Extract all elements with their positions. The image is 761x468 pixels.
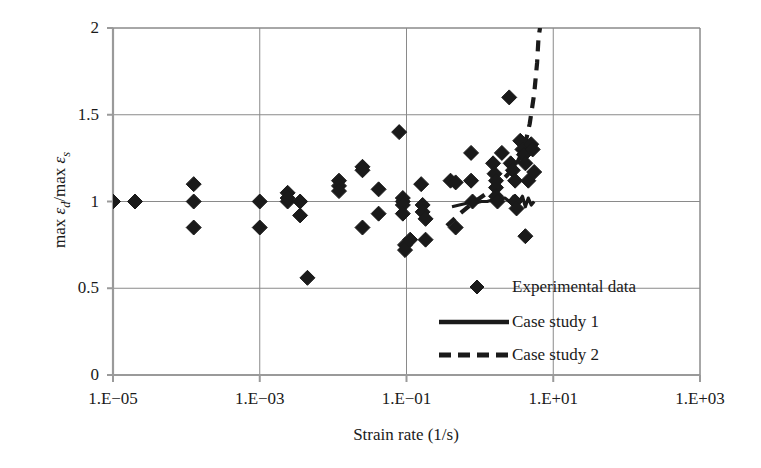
x-axis-tick-label: 1.E+03	[675, 389, 725, 409]
y-axis-title-separator: /max	[50, 163, 69, 201]
data-point-diamond	[186, 177, 201, 192]
y-axis-title-subscript-s: s	[59, 152, 73, 157]
data-point-diamond	[502, 90, 517, 105]
legend-label-3: Case study 2	[512, 345, 599, 365]
y-axis-title-prefix: max	[50, 215, 69, 249]
legend-marker-diamond	[470, 280, 484, 294]
y-axis-title: max εd/max εs	[50, 152, 73, 248]
data-point-diamond	[464, 145, 479, 160]
data-point-diamond	[355, 220, 370, 235]
data-point-diamond	[494, 145, 509, 160]
data-point-diamond	[186, 220, 201, 235]
data-point-diamond	[293, 194, 308, 209]
data-point-diamond	[252, 194, 267, 209]
data-point-diamond	[371, 182, 386, 197]
y-axis-tick-label: 1.5	[0, 105, 99, 125]
data-point-diamond	[128, 194, 143, 209]
y-axis-tick-label: 0	[0, 365, 99, 385]
data-point-diamond	[371, 206, 386, 221]
data-point-diamond	[293, 208, 308, 223]
data-point-diamond	[252, 220, 267, 235]
data-point-diamond	[392, 125, 407, 140]
chart-container: 00.511.52 1.E−051.E−031.E−011.E+011.E+03…	[0, 0, 761, 468]
legend-label-2: Case study 1	[512, 312, 599, 332]
data-point-diamond	[395, 206, 410, 221]
data-point-diamond	[464, 173, 479, 188]
y-axis-tick-label: 2	[0, 18, 99, 38]
series-points	[106, 90, 542, 285]
data-point-diamond	[300, 270, 315, 285]
data-point-diamond	[186, 194, 201, 209]
data-point-diamond	[518, 229, 533, 244]
data-point-diamond	[418, 232, 433, 247]
y-axis-title-epsilon-s: ε	[50, 157, 69, 164]
legend-label-1: Experimental data	[512, 277, 636, 297]
x-axis-title: Strain rate (1/s)	[353, 425, 459, 445]
y-axis-title-epsilon-d: ε	[50, 208, 69, 215]
x-axis-tick-label: 1.E−03	[235, 389, 285, 409]
x-axis-tick-label: 1.E−01	[382, 389, 432, 409]
y-axis-title-subscript-d: d	[59, 202, 73, 208]
x-axis-tick-label: 1.E+01	[528, 389, 578, 409]
x-axis-tick-label: 1.E−05	[88, 389, 138, 409]
legend-marks	[439, 280, 509, 355]
data-point-diamond	[414, 177, 429, 192]
y-axis-tick-label: 0.5	[0, 278, 99, 298]
